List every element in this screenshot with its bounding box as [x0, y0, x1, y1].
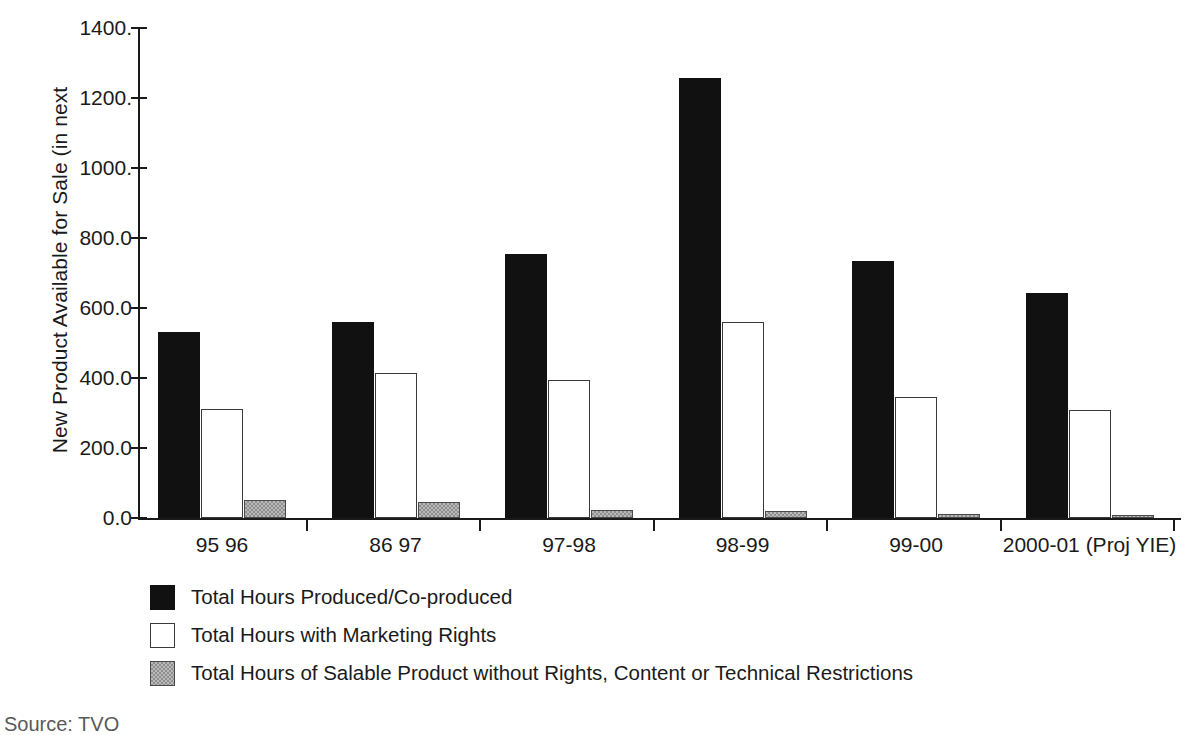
- x-tick-mark: [479, 520, 481, 531]
- legend-item[interactable]: Total Hours with Marketing Rights: [150, 616, 1050, 654]
- bar[interactable]: [679, 78, 721, 518]
- bar-group: [158, 28, 286, 518]
- x-category-label: 2000-01 (Proj YIE): [1003, 533, 1177, 557]
- chart-legend: Total Hours Produced/Co-producedTotal Ho…: [150, 578, 1050, 692]
- legend-label: Total Hours Produced/Co-produced: [191, 585, 512, 609]
- bar[interactable]: [1026, 293, 1068, 518]
- y-tick-label: 0.0: [103, 506, 132, 530]
- y-tick-label: 600.0: [79, 296, 132, 320]
- x-tick-mark: [1173, 520, 1175, 531]
- x-category-label: 95 96: [196, 533, 249, 557]
- bar[interactable]: [722, 322, 764, 518]
- x-category-label: 97-98: [542, 533, 596, 557]
- bar[interactable]: [852, 261, 894, 518]
- bar-group: [505, 28, 633, 518]
- bar[interactable]: [1112, 515, 1154, 518]
- x-tick-mark: [1000, 520, 1002, 531]
- y-tick-label: 200.0: [79, 436, 132, 460]
- legend-swatch-icon: [150, 623, 175, 648]
- bar[interactable]: [765, 511, 807, 518]
- bar-group: [1026, 28, 1154, 518]
- bar[interactable]: [201, 409, 243, 518]
- legend-item[interactable]: Total Hours of Salable Product without R…: [150, 654, 1050, 692]
- x-category-label: 98-99: [716, 533, 770, 557]
- legend-swatch-icon: [150, 585, 175, 610]
- plot-area: [140, 28, 1181, 518]
- bar[interactable]: [375, 373, 417, 518]
- bar[interactable]: [244, 500, 286, 518]
- bar[interactable]: [938, 514, 980, 518]
- bar[interactable]: [548, 380, 590, 518]
- legend-swatch-icon: [150, 661, 175, 686]
- x-category-label: 99-00: [889, 533, 943, 557]
- legend-label: Total Hours with Marketing Rights: [191, 623, 496, 647]
- bar-group: [332, 28, 460, 518]
- bar[interactable]: [332, 322, 374, 518]
- bar[interactable]: [418, 502, 460, 518]
- x-tick-mark: [826, 520, 828, 531]
- bar[interactable]: [505, 254, 547, 518]
- bar[interactable]: [1069, 410, 1111, 518]
- bar[interactable]: [895, 397, 937, 518]
- source-footnote: Source: TVO: [4, 713, 119, 735]
- x-tick-mark: [306, 520, 308, 531]
- x-axis-line: [138, 518, 1181, 520]
- y-tick-label: 1000.: [79, 156, 132, 180]
- y-tick-label: 800.0: [79, 226, 132, 250]
- bar-group: [852, 28, 980, 518]
- y-tick-label: 1200.: [79, 86, 132, 110]
- bar[interactable]: [591, 510, 633, 518]
- y-tick-label: 1400.: [79, 16, 132, 40]
- x-tick-mark: [653, 520, 655, 531]
- y-axis-tick-labels: 0.0200.0400.0600.0800.01000.1200.1400.: [10, 0, 132, 540]
- bar[interactable]: [158, 332, 200, 518]
- legend-label: Total Hours of Salable Product without R…: [191, 661, 913, 685]
- legend-item[interactable]: Total Hours Produced/Co-produced: [150, 578, 1050, 616]
- bar-group: [679, 28, 807, 518]
- y-tick-label: 400.0: [79, 366, 132, 390]
- x-category-label: 86 97: [369, 533, 422, 557]
